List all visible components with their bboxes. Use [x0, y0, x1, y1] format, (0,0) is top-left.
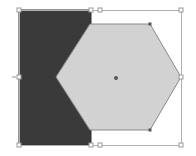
resize-handle[interactable] [179, 143, 183, 147]
resize-handle[interactable] [17, 75, 21, 79]
vertex-marker [149, 23, 152, 26]
resize-handle[interactable] [98, 143, 102, 147]
resize-handle[interactable] [17, 143, 21, 147]
resize-handle[interactable] [89, 8, 93, 12]
resize-handle[interactable] [179, 8, 183, 12]
resize-handle[interactable] [89, 143, 93, 147]
drawing-canvas[interactable] [0, 0, 196, 156]
resize-handle[interactable] [98, 8, 102, 12]
center-point-marker[interactable] [114, 76, 118, 80]
resize-handle[interactable] [17, 8, 21, 12]
resize-handle[interactable] [179, 75, 183, 79]
vertex-marker [149, 129, 152, 132]
